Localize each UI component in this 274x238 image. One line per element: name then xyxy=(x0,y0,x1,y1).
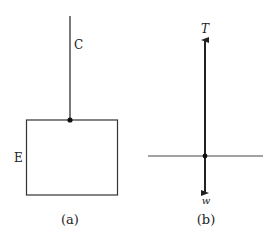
caption-b: (b) xyxy=(197,212,215,227)
tension-label: T xyxy=(201,22,210,36)
weight-label: w xyxy=(202,195,211,206)
caption-a: (a) xyxy=(61,212,79,227)
free-body-diagram: C E (a) T w (b) xyxy=(0,0,274,238)
figure-b: T w (b) xyxy=(148,22,263,227)
body-label: E xyxy=(14,151,23,165)
cord-label: C xyxy=(74,38,83,52)
attachment-point-dot xyxy=(67,117,72,122)
figure-a: C E (a) xyxy=(14,16,118,227)
particle-dot xyxy=(203,154,208,159)
hanging-body-rectangle xyxy=(27,120,118,195)
